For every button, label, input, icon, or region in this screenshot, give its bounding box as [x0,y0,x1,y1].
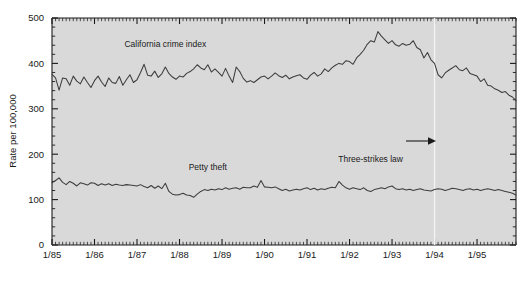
crime-rate-line-chart: 0100200300400500 1/851/861/871/881/891/9… [0,0,532,281]
x-tick-label: 1/90 [255,249,274,260]
x-tick-label: 1/94 [425,249,444,260]
plot-area-background [52,18,516,245]
x-tick-label: 1/92 [340,249,359,260]
chart-figure: 0100200300400500 1/851/861/871/881/891/9… [0,0,532,281]
y-tick-label: 500 [28,12,44,23]
y-tick-label: 400 [28,58,44,69]
y-tick-label: 100 [28,194,44,205]
x-tick-label: 1/88 [170,249,189,260]
x-tick-label: 1/86 [85,249,104,260]
x-tick-label: 1/93 [383,249,402,260]
x-tick-label: 1/85 [43,249,62,260]
series-label-california-crime-index: California crime index [124,39,206,49]
annotation-three-strikes-law: Three-strikes law [338,154,404,164]
y-tick-label: 300 [28,103,44,114]
x-tick-label: 1/89 [213,249,232,260]
x-tick-label: 1/95 [468,249,487,260]
x-tick-label: 1/91 [298,249,317,260]
y-tick-label: 200 [28,149,44,160]
series-label-petty-theft: Petty theft [189,162,228,172]
x-tick-label: 1/87 [128,249,147,260]
y-axis-label: Rate per 100,000 [7,94,18,167]
